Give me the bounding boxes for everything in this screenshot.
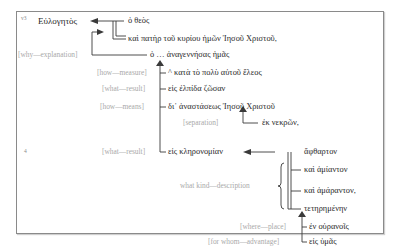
verse-marker-4: 4 <box>24 147 27 155</box>
label-what-result-1: [what—result] <box>102 84 145 94</box>
word-kai-amianton: καὶ ἀμίαντον <box>304 165 348 175</box>
word-ek-nekron: ἐκ νεκρῶν, <box>262 118 299 128</box>
word-teteremenen: τετηρημένην <box>304 204 347 214</box>
word-en-ouranois: ἐν οὐρανοῖς <box>309 222 349 232</box>
word-eis-kleronomian: εἰς κληρονομίαν <box>168 147 223 157</box>
word-ho-anagennesas: ὁ … ἀναγεννήσας ἡμᾶς <box>150 50 229 60</box>
label-what-kind-description: what kind—description <box>180 181 250 191</box>
label-how-measure: [how—measure] <box>97 68 147 78</box>
word-eulogetos: Εὐλογητὸς <box>38 16 77 26</box>
label-how-means: [how—means] <box>100 102 144 112</box>
label-why-explanation: [why—explanation] <box>18 50 78 60</box>
label-for-whom-advantage: [for whom—advantage] <box>208 237 279 247</box>
word-ho-theos: ὁ θεὸς <box>128 16 149 26</box>
word-kai-pater: καὶ πατὴρ τοῦ κυρίου ἡμῶν Ἰησοῦ Χριστοῦ, <box>128 34 277 44</box>
label-where-place: [where—place] <box>240 222 286 232</box>
verse-marker-3: v3 <box>21 14 27 22</box>
label-what-result-2: [what—result] <box>102 147 145 157</box>
word-eis-elpida: εἰς ἐλπίδα ζῶσαν <box>168 84 225 94</box>
word-di-anastaseos: δι᾽ ἀναστάσεως Ἰησοῦ Χριστοῦ <box>168 102 275 112</box>
label-separation: [separation] <box>183 118 218 128</box>
word-kata: ^ κατὰ τὸ πολὺ αὐτοῦ ἔλεος <box>168 68 262 78</box>
word-aphtharton: ἄφθαρτον <box>304 147 337 157</box>
word-kai-amaranton: καὶ ἀμάραντον, <box>304 186 356 196</box>
word-eis-humas: εἰς ὑμᾶς <box>309 237 337 247</box>
